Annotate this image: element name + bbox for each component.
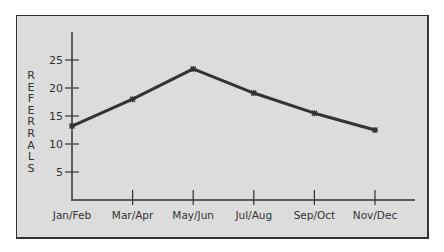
data-point-marker	[311, 110, 317, 116]
x-tick-label: Mar/Apr	[112, 209, 154, 221]
y-tick-label: 10	[49, 138, 63, 151]
y-tick-label: 25	[49, 54, 63, 67]
data-point-marker	[190, 66, 196, 72]
y-tick-label: 20	[49, 82, 63, 95]
line-chart: 510152025Jan/FebMar/AprMay/JunJul/AugSep…	[0, 0, 444, 252]
data-point-marker	[251, 90, 257, 96]
data-point-marker	[130, 96, 136, 102]
x-tick-label: Sep/Oct	[294, 209, 335, 221]
y-tick-label: 15	[49, 110, 63, 123]
x-tick-label: May/Jun	[172, 209, 214, 221]
x-tick-label: Jan/Feb	[52, 209, 92, 221]
data-point-marker	[372, 127, 378, 133]
x-tick-label: Nov/Dec	[353, 209, 398, 221]
y-tick-label: 5	[56, 166, 63, 179]
data-line	[72, 69, 375, 130]
data-point-marker	[69, 123, 75, 129]
x-tick-label: Jul/Aug	[234, 209, 272, 221]
